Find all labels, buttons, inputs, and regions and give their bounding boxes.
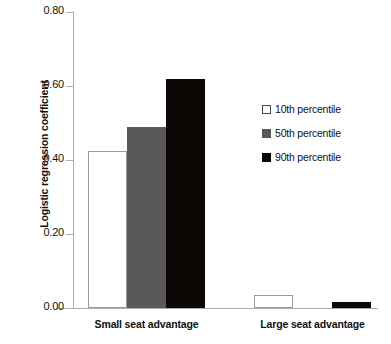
- legend-swatch-icon: [262, 105, 271, 114]
- bar: [166, 79, 205, 308]
- legend-label: 90th percentile: [275, 151, 341, 163]
- legend-label: 10th percentile: [275, 103, 341, 115]
- y-axis-tick-label: 0.60: [24, 78, 64, 90]
- bar: [332, 302, 371, 308]
- bar: [127, 127, 166, 308]
- bar-chart-figure: Logistic regression coefficient 0.000.20…: [0, 0, 391, 344]
- chart-legend: 10th percentile50th percentile90th perce…: [262, 97, 341, 169]
- y-axis-tick-mark: [66, 86, 74, 87]
- legend-label: 50th percentile: [275, 127, 341, 139]
- y-axis-tick-label: 0.80: [24, 4, 64, 16]
- legend-item: 10th percentile: [262, 97, 341, 121]
- y-axis-tick-mark: [66, 12, 74, 13]
- y-axis-tick-mark: [66, 234, 74, 235]
- bar: [88, 151, 127, 308]
- x-axis-line: [56, 308, 378, 309]
- y-axis-tick-label: 0.20: [24, 226, 64, 238]
- x-axis-group-label: Small seat advantage: [67, 318, 227, 330]
- y-axis-tick-mark: [66, 160, 74, 161]
- y-axis-tick-label: 0.00: [24, 300, 64, 312]
- legend-item: 50th percentile: [262, 121, 341, 145]
- legend-item: 90th percentile: [262, 145, 341, 169]
- legend-swatch-icon: [262, 153, 271, 162]
- x-axis-group-label: Large seat advantage: [233, 318, 391, 330]
- bar: [254, 295, 293, 308]
- legend-swatch-icon: [262, 129, 271, 138]
- y-axis-tick-label: 0.40: [24, 152, 64, 164]
